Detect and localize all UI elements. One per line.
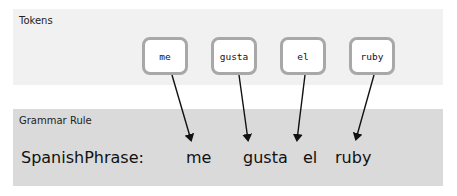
rule-word-me: me [186,148,211,167]
rule-word-gusta: gusta [243,148,288,167]
token-box-ruby: ruby [349,37,395,75]
tokens-panel-label: Tokens [19,15,53,26]
rule-name: SpanishPhrase: [21,148,144,167]
tokens-panel: Tokens me gusta el ruby [13,9,443,85]
rule-word-el: el [303,148,317,167]
grammar-panel-label: Grammar Rule [19,115,92,126]
rule-word-ruby: ruby [335,148,371,167]
grammar-rule-panel: Grammar Rule SpanishPhrase: me gusta el … [13,109,443,186]
token-box-me: me [142,37,188,75]
token-box-gusta: gusta [211,37,257,75]
token-box-el: el [280,37,326,75]
